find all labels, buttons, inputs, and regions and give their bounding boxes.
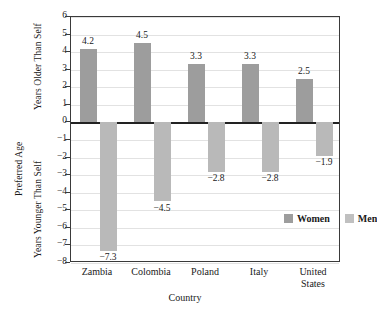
y-axis-tick-label: −6 [45, 222, 67, 232]
bar-women [296, 79, 313, 123]
bar-men [316, 122, 333, 155]
bar-value-label-women: 3.3 [176, 52, 216, 62]
y-axis-tick-label: −5 [45, 205, 67, 215]
bar-men [154, 122, 171, 201]
y-axis-tick-label: −1 [45, 134, 67, 144]
gridline [71, 263, 339, 264]
bar-women [80, 49, 97, 123]
bar-men [208, 122, 225, 171]
x-axis-tick-label-line: United [278, 266, 348, 278]
y-axis-tick-mark [65, 244, 70, 245]
y-axis-tick-mark [65, 16, 70, 17]
chart-legend: WomenMen [284, 213, 377, 224]
bar-women [242, 64, 259, 122]
bar-value-label-women: 2.5 [284, 67, 324, 77]
y-axis-tick-label: −3 [45, 169, 67, 179]
y-axis-tick-mark [65, 209, 70, 210]
bar-value-label-men: −1.9 [304, 158, 344, 168]
y-axis-tick-mark [65, 69, 70, 70]
bar-men [262, 122, 279, 171]
legend-entry: Men [345, 213, 377, 224]
bar-women [134, 43, 151, 122]
bar-value-label-men: −4.5 [142, 204, 182, 214]
legend-entry: Women [284, 213, 330, 224]
y-axis-tick-label: 2 [45, 82, 67, 92]
bars-layer: 4.2−7.34.5−4.53.3−2.83.3−2.82.5−1.9 [71, 17, 339, 261]
legend-swatch-icon [345, 214, 354, 223]
y-axis-tick-mark [65, 139, 70, 140]
x-axis-title: Country [0, 292, 370, 303]
legend-label: Women [297, 213, 330, 224]
bar-men [100, 122, 117, 250]
legend-swatch-icon [284, 214, 293, 223]
y-axis-tick-mark [65, 262, 70, 263]
x-axis-tick-label-line: States [278, 278, 348, 290]
bar-value-label-women: 4.2 [68, 37, 108, 47]
plot-area: 4.2−7.34.5−4.53.3−2.83.3−2.82.5−1.9 Wome… [70, 16, 340, 262]
bar-value-label-men: −2.8 [250, 174, 290, 184]
bar-women [188, 64, 205, 122]
y-axis-tick-mark [65, 192, 70, 193]
y-axis-tick-label: 0 [45, 117, 67, 127]
y-axis-tick-label: 1 [45, 99, 67, 109]
bar-value-label-men: −7.3 [88, 253, 128, 263]
y-axis-tick-mark [65, 34, 70, 35]
y-axis-tick-label: 3 [45, 64, 67, 74]
y-axis-title-outer: Preferred Age [14, 142, 24, 196]
y-axis-title-lower: Years Younger Than Self [33, 161, 43, 258]
y-axis-tick-mark [65, 227, 70, 228]
bar-value-label-women: 4.5 [122, 31, 162, 41]
y-axis-tick-label: −4 [45, 187, 67, 197]
y-axis-tick-label: 6 [45, 11, 67, 21]
bar-value-label-women: 3.3 [230, 52, 270, 62]
y-axis-tick-mark [65, 86, 70, 87]
y-axis-tick-label: 4 [45, 46, 67, 56]
y-axis-tick-mark [65, 104, 70, 105]
y-axis-tick-label: −7 [45, 240, 67, 250]
legend-label: Men [358, 213, 377, 224]
y-axis-tick-label: −2 [45, 152, 67, 162]
y-axis-tick-label: 5 [45, 29, 67, 39]
y-axis-tick-mark [65, 51, 70, 52]
y-axis-title-upper: Years Older Than Self [33, 23, 43, 110]
x-axis-tick-label: UnitedStates [278, 266, 348, 289]
bar-value-label-men: −2.8 [196, 174, 236, 184]
y-axis-tick-mark [65, 121, 70, 122]
y-axis-tick-mark [65, 174, 70, 175]
y-axis-tick-mark [65, 157, 70, 158]
